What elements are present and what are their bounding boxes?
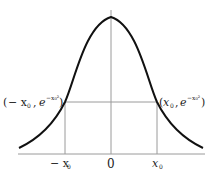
svg-text:): ): [201, 96, 205, 109]
svg-text:e: e: [180, 96, 187, 109]
gaussian-diagram: ( − x 0 , e −x₀² ) ( x 0 , e −x₀² ) − x …: [0, 0, 214, 177]
tick-origin: 0: [107, 157, 115, 171]
svg-text:x: x: [152, 157, 159, 170]
svg-text:−x₀²: −x₀²: [187, 94, 201, 101]
svg-text:0: 0: [27, 102, 31, 109]
svg-text:): ): [59, 96, 63, 109]
svg-text:x: x: [163, 96, 170, 109]
left-point-label: ( − x 0 , e −x₀² ): [3, 94, 63, 109]
svg-text:0: 0: [159, 163, 163, 170]
tick-pos-x0: x 0: [152, 157, 163, 170]
tick-neg-x0: − x 0: [50, 157, 71, 170]
svg-text:− x: − x: [8, 96, 28, 109]
svg-text:(: (: [3, 96, 7, 109]
svg-text:,: ,: [33, 96, 37, 109]
right-point-label: ( x 0 , e −x₀² ): [159, 94, 205, 109]
svg-text:0: 0: [67, 163, 71, 170]
svg-text:0: 0: [170, 102, 174, 109]
svg-text:−x₀²: −x₀²: [46, 94, 60, 101]
svg-text:,: ,: [175, 96, 179, 109]
svg-text:e: e: [39, 96, 46, 109]
